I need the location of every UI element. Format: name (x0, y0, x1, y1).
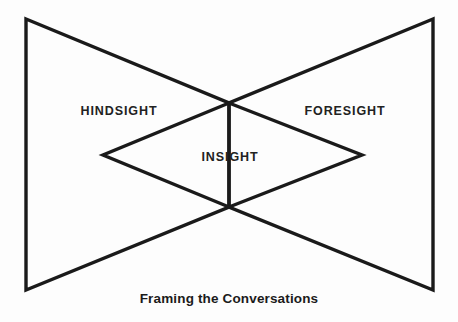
figure-caption: Framing the Conversations (140, 291, 319, 306)
left-triangle-path (26, 19, 229, 290)
figure-root: HINDSIGHT FORESIGHT INSIGHT Framing the … (0, 0, 458, 322)
label-insight: INSIGHT (202, 150, 259, 164)
label-hindsight: HINDSIGHT (81, 104, 158, 118)
label-foresight: FORESIGHT (304, 104, 385, 118)
right-triangle-path (229, 19, 433, 290)
